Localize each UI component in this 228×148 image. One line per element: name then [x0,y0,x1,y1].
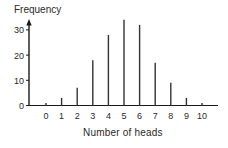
y-axis [26,19,31,106]
x-tick-label: 3 [90,111,95,121]
bars [46,20,202,106]
x-tick-label: 5 [121,111,126,121]
x-tick-label: 1 [59,111,64,121]
y-tick-label: 30 [14,25,24,35]
y-tick-label: 20 [14,51,24,61]
x-tick-label: 10 [197,111,207,121]
x-tick-label: 4 [106,111,111,121]
y-tick-label: 10 [14,76,24,86]
x-tick-label: 6 [137,111,142,121]
y-ticks: 0102030 [14,25,29,111]
x-tick-label: 9 [184,111,189,121]
y-axis-label: Frequency [14,4,61,15]
y-tick-label: 0 [19,101,24,111]
x-tick-label: 7 [153,111,158,121]
x-tick-label: 8 [168,111,173,121]
x-ticks: 012345678910 [43,111,207,121]
x-axis-label: Number of heads [83,127,163,138]
frequency-chart: Frequency 0102030 012345678910 Number of… [0,0,228,148]
y-axis-arrow-icon [26,19,31,26]
x-tick-label: 2 [75,111,80,121]
x-tick-label: 0 [43,111,48,121]
